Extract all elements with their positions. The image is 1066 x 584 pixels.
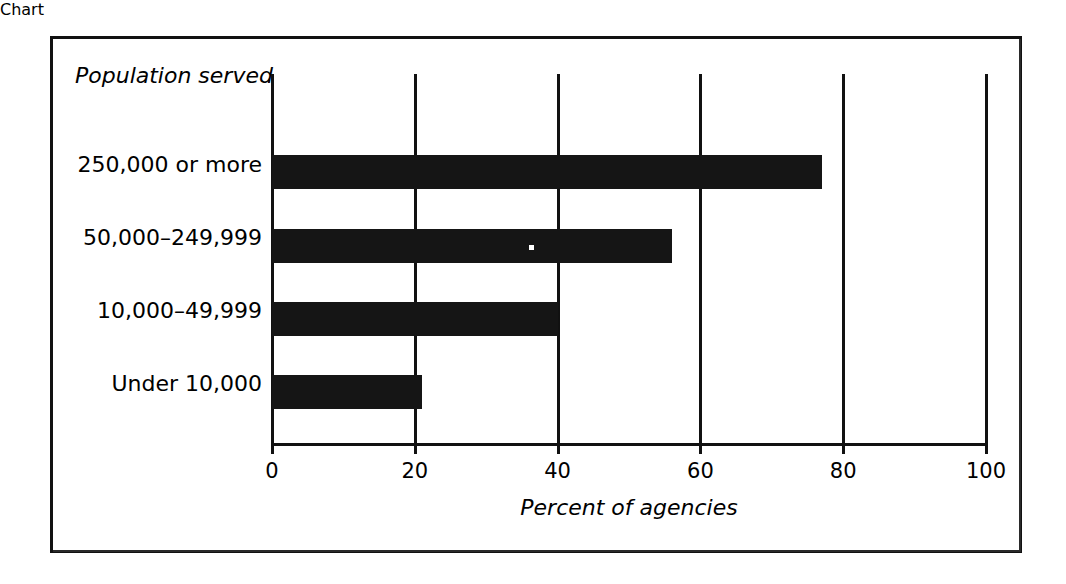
gridline-100 bbox=[985, 74, 988, 443]
bar-under-10000 bbox=[272, 375, 422, 409]
tick-mark-0 bbox=[271, 443, 274, 454]
category-label-250000-or-more: 250,000 or more bbox=[22, 152, 262, 178]
tick-label-20: 20 bbox=[401, 458, 428, 484]
x-axis-line bbox=[271, 443, 988, 446]
tick-mark-20 bbox=[414, 443, 417, 454]
category-label-under-10000: Under 10,000 bbox=[22, 371, 262, 397]
tick-mark-80 bbox=[842, 443, 845, 454]
bar-chart: Population served 250,000 or more 50,000… bbox=[0, 0, 1066, 584]
gridline-80 bbox=[842, 74, 845, 443]
tick-label-100: 100 bbox=[966, 458, 1006, 484]
category-label-50000-249999: 50,000–249,999 bbox=[22, 225, 262, 251]
category-axis-labels: 250,000 or more 50,000–249,999 10,000–49… bbox=[12, 0, 262, 584]
x-axis-title: Percent of agencies bbox=[272, 494, 986, 522]
scan-artifact-speck bbox=[529, 245, 534, 250]
tick-label-40: 40 bbox=[544, 458, 571, 484]
tick-mark-40 bbox=[557, 443, 560, 454]
tick-label-60: 60 bbox=[687, 458, 714, 484]
bar-50000-249999 bbox=[272, 229, 672, 263]
bar-250000-or-more bbox=[272, 155, 822, 189]
plot-area bbox=[272, 74, 986, 443]
category-label-10000-49999: 10,000–49,999 bbox=[22, 298, 262, 324]
bar-10000-49999 bbox=[272, 302, 558, 336]
tick-mark-60 bbox=[699, 443, 702, 454]
tick-mark-100 bbox=[985, 443, 988, 454]
tick-label-80: 80 bbox=[830, 458, 857, 484]
gridline-60 bbox=[699, 74, 702, 443]
tick-label-0: 0 bbox=[265, 458, 278, 484]
